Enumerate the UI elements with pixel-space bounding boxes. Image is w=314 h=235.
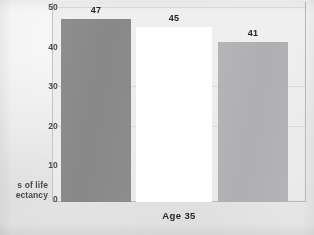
x-axis-title: Age 35 <box>52 210 306 221</box>
bar-3-value-label: 41 <box>218 28 288 38</box>
chart-figure: 50 40 30 20 10 0 47 45 41 s of life ecta… <box>0 0 314 235</box>
bar-3-body <box>218 42 288 202</box>
bar-chart-screenshot: 50 40 30 20 10 0 47 45 41 s of life ecta… <box>0 0 314 235</box>
bar-2-value-label: 45 <box>136 13 212 23</box>
bar-2-body <box>136 27 212 203</box>
bar-3[interactable]: 41 <box>218 42 288 202</box>
y-axis-title-line-1: s of life <box>0 180 48 190</box>
y-axis-line <box>52 2 53 202</box>
y-axis-tick-10: 10 <box>24 160 58 170</box>
y-axis-title: s of life ectancy <box>0 180 48 200</box>
y-axis-tick-40: 40 <box>24 42 58 52</box>
y-axis-title-line-2: ectancy <box>0 190 48 200</box>
bar-1-value-label: 47 <box>61 5 131 15</box>
bar-1[interactable]: 47 <box>61 19 131 202</box>
bar-1-body <box>61 19 131 202</box>
bar-2[interactable]: 45 <box>136 27 212 203</box>
